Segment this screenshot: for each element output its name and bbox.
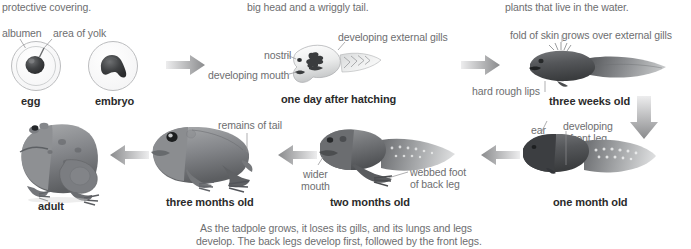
illustration-adult-frog [20, 123, 99, 205]
illustration-egg [12, 39, 61, 91]
illustration-three-weeks-old [529, 35, 666, 92]
illustration-embryo [89, 42, 138, 91]
illustration-layer [0, 0, 691, 249]
illustration-two-months-old [318, 130, 455, 186]
arrow-three-months-to-adult-icon [110, 145, 149, 165]
arrow-one-month-to-two-months-icon [481, 145, 520, 165]
illustration-three-months-old [151, 127, 252, 192]
illustration-one-day-after-hatching [287, 42, 381, 82]
arrow-two-months-to-three-months-icon [278, 145, 317, 165]
arrow-three-weeks-to-one-month-icon [630, 96, 658, 139]
frog-life-cycle-diagram: protective covering. big head and a wrig… [0, 0, 691, 249]
arrow-hatchling-to-three-weeks-icon [461, 55, 500, 75]
arrow-egg-to-hatchling-icon [166, 55, 205, 75]
